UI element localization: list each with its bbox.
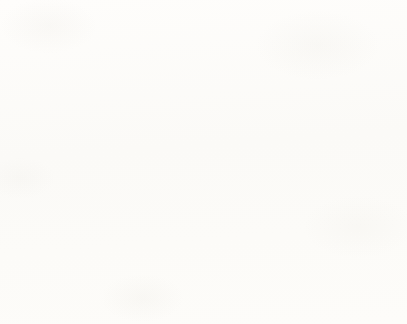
category-label: Schweden [0, 192, 106, 215]
x-tick-label: 10% [196, 292, 212, 301]
bar [113, 269, 307, 278]
x-tick-label: 30% [332, 292, 348, 301]
bar-row [113, 100, 385, 123]
x-tick-label: 5% [153, 292, 164, 301]
category-label: Frankreich [0, 262, 106, 285]
bar-row [113, 123, 385, 146]
bar [113, 37, 194, 46]
bar [113, 222, 219, 231]
category-axis: AndereBelgienNorwegenSchweizÖsterreichNi… [0, 30, 106, 285]
bar-row [113, 76, 385, 99]
category-label: Niederlande [0, 146, 106, 169]
bar-row [113, 169, 385, 192]
category-label: Belgien [0, 53, 106, 76]
bar-row [113, 239, 385, 262]
bar-row [113, 262, 385, 285]
bar-row [113, 53, 385, 76]
bars-layer [113, 30, 385, 285]
bar [113, 153, 177, 162]
category-label: Deutschland [0, 239, 106, 262]
horizontal-bar-chart: AndereBelgienNorwegenSchweizÖsterreichNi… [0, 0, 407, 324]
category-label: Andere [0, 30, 106, 53]
bar [113, 83, 150, 92]
bar [113, 107, 157, 116]
x-tick-label: 15% [241, 292, 257, 301]
bar-row [113, 215, 385, 238]
bar [113, 176, 178, 185]
bar [113, 130, 159, 139]
x-tick-label: 20% [286, 292, 302, 301]
bar-row [113, 192, 385, 215]
category-label: Italien [0, 169, 106, 192]
bar-row [113, 146, 385, 169]
bar-row [113, 30, 385, 53]
value-axis: 0%5%10%15%20%30% [113, 292, 385, 308]
category-label: Schweiz [0, 100, 106, 123]
category-label: Österreich [0, 123, 106, 146]
bar [113, 60, 134, 69]
bar [113, 246, 268, 255]
bar [113, 199, 209, 208]
category-label: Großbritannien [0, 215, 106, 238]
x-tick-label: 0% [107, 292, 118, 301]
category-label: Norwegen [0, 76, 106, 99]
gridline-30 [385, 30, 386, 285]
